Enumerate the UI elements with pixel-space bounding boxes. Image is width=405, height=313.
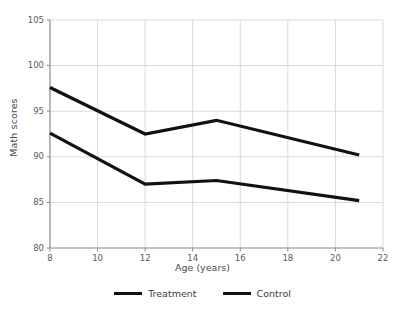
- chart-container: Math scores Age (years) 80859095100105 8…: [0, 0, 405, 313]
- x-tick-label: 10: [86, 253, 110, 263]
- vertical-gridlines: [98, 20, 383, 248]
- x-axis-label: Age (years): [0, 262, 405, 273]
- y-tick-label: 100: [20, 60, 44, 70]
- legend-line-swatch-treatment: [114, 292, 142, 295]
- data-series-lines: [50, 87, 359, 200]
- legend-label-treatment: Treatment: [148, 288, 196, 299]
- y-tick-label: 95: [20, 106, 44, 116]
- y-tick-label: 85: [20, 197, 44, 207]
- y-tick-label: 105: [20, 15, 44, 25]
- legend-item-control: Control: [223, 288, 291, 299]
- x-tick-label: 14: [181, 253, 205, 263]
- x-tick-label: 22: [371, 253, 395, 263]
- x-tick-label: 16: [228, 253, 252, 263]
- y-tick-label: 80: [20, 243, 44, 253]
- x-tick-label: 20: [323, 253, 347, 263]
- x-tick-label: 8: [38, 253, 62, 263]
- legend-item-treatment: Treatment: [114, 288, 196, 299]
- axis-lines: [50, 20, 383, 248]
- x-tick-label: 12: [133, 253, 157, 263]
- y-tick-label: 90: [20, 151, 44, 161]
- legend-label-control: Control: [257, 288, 291, 299]
- chart-legend: Treatment Control: [0, 288, 405, 299]
- series-line-treatment: [50, 87, 359, 154]
- x-tick-label: 18: [276, 253, 300, 263]
- legend-line-swatch-control: [223, 292, 251, 295]
